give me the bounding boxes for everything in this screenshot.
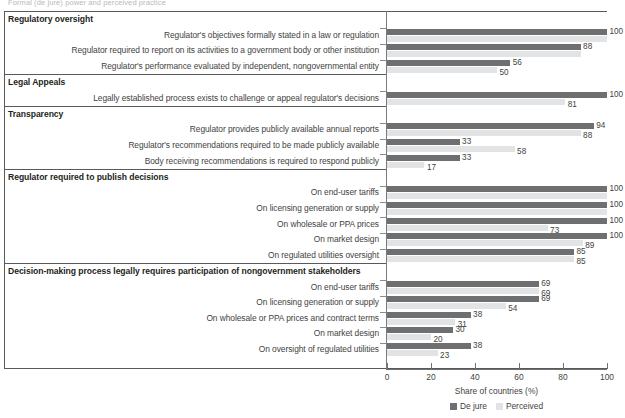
- x-axis-tick-label: 80: [558, 372, 567, 382]
- section-divider: [4, 263, 386, 264]
- bar-de-jure: [387, 202, 607, 208]
- category-tick: [380, 44, 386, 45]
- category-label: On market design: [314, 328, 379, 338]
- x-axis-tick: [387, 363, 388, 369]
- bar-de-jure: [387, 312, 471, 318]
- x-axis-tick: [475, 363, 476, 369]
- bar-perceived: [387, 334, 431, 340]
- bar-value-perceived: 50: [500, 68, 509, 77]
- x-axis-tick-label: 20: [426, 372, 435, 382]
- bar-value-de-jure: 100: [610, 216, 624, 225]
- bar-perceived: [387, 350, 438, 356]
- bar-de-jure: [387, 281, 539, 287]
- bar-value-de-jure: 100: [610, 200, 624, 209]
- bar-value-de-jure: 100: [610, 27, 624, 36]
- bar-value-de-jure: 100: [610, 90, 624, 99]
- category-label: On wholesale or PPA prices: [277, 219, 379, 229]
- legend-label-de-jure: De jure: [460, 401, 487, 411]
- bar-value-de-jure: 100: [610, 184, 624, 193]
- bar-de-jure: [387, 123, 594, 129]
- chart-legend: De jure Perceived: [386, 401, 607, 411]
- category-tick: [380, 312, 386, 313]
- category-label: On licensing generation or supply: [256, 203, 379, 213]
- bar-perceived: [387, 225, 548, 231]
- bar-perceived: [387, 193, 607, 199]
- bar-value-de-jure: 100: [610, 231, 624, 240]
- bar-value-de-jure: 94: [596, 121, 605, 130]
- bar-perceived: [387, 162, 424, 168]
- bar-perceived: [387, 130, 581, 136]
- category-label: Body receiving recommendations is requir…: [145, 156, 379, 166]
- category-tick: [380, 28, 386, 29]
- section-divider: [4, 74, 386, 75]
- legend-swatch-perceived: [496, 403, 503, 410]
- chart-canvas: Formal (de jure) power and perceived pra…: [0, 0, 625, 418]
- bar-perceived: [387, 240, 583, 246]
- x-axis-tick-label: 0: [385, 372, 390, 382]
- category-tick: [380, 233, 386, 234]
- bar-value-perceived: 81: [568, 100, 577, 109]
- bar-perceived: [387, 99, 565, 105]
- bar-value-de-jure: 30: [456, 325, 465, 334]
- x-axis-tick-label: 40: [470, 372, 479, 382]
- bar-perceived: [387, 303, 506, 309]
- chart-frame-left-border: [4, 11, 5, 369]
- category-label: On end-user tariffs: [311, 282, 379, 292]
- bar-value-de-jure: 69: [541, 279, 550, 288]
- bar-de-jure: [387, 44, 581, 50]
- bar-de-jure: [387, 343, 471, 349]
- category-tick: [380, 91, 386, 92]
- bar-de-jure: [387, 29, 607, 35]
- section-divider: [4, 106, 386, 107]
- x-axis-tick-label: 60: [514, 372, 523, 382]
- section-divider: [4, 169, 386, 170]
- section-heading: Regulatory oversight: [8, 14, 93, 24]
- bar-perceived: [387, 319, 455, 325]
- x-axis-tick-label: 100: [600, 372, 614, 382]
- bar-de-jure: [387, 186, 607, 192]
- section-heading: Transparency: [8, 109, 63, 119]
- category-tick: [380, 186, 386, 187]
- x-axis-tick: [607, 363, 608, 369]
- category-tick: [380, 343, 386, 344]
- bar-perceived: [387, 209, 607, 215]
- x-axis-line: [386, 369, 607, 370]
- bar-value-de-jure: 38: [473, 341, 482, 350]
- bar-value-de-jure: 85: [577, 247, 586, 256]
- category-tick: [380, 327, 386, 328]
- category-label: Regulator's objectives formally stated i…: [164, 30, 379, 40]
- bar-de-jure: [387, 296, 539, 302]
- category-label: On oversight of regulated utilities: [259, 344, 379, 354]
- bar-de-jure: [387, 233, 607, 239]
- category-tick: [380, 202, 386, 203]
- section-heading: Legal Appeals: [8, 77, 65, 87]
- category-label: Regulator provides publicly available an…: [190, 124, 379, 134]
- x-axis-tick: [563, 363, 564, 369]
- bar-perceived: [387, 288, 539, 294]
- category-label: On licensing generation or supply: [256, 297, 379, 307]
- category-label: Legally established process exists to ch…: [93, 93, 379, 103]
- category-tick: [380, 249, 386, 250]
- bar-value-perceived: 89: [585, 241, 594, 250]
- bar-de-jure: [387, 249, 574, 255]
- category-tick: [380, 217, 386, 218]
- legend-item-perceived: Perceived: [496, 401, 543, 411]
- bar-perceived: [387, 67, 497, 73]
- bar-de-jure: [387, 327, 453, 333]
- bar-value-perceived: 88: [583, 131, 592, 140]
- category-label: Regulator's recommendations required to …: [128, 140, 379, 150]
- bar-value-de-jure: 88: [583, 42, 592, 51]
- category-tick: [380, 139, 386, 140]
- section-heading: Decision-making process legally requires…: [8, 266, 361, 276]
- bar-de-jure: [387, 139, 460, 145]
- legend-item-de-jure: De jure: [450, 401, 487, 411]
- bar-de-jure: [387, 60, 510, 66]
- bar-value-de-jure: 56: [513, 58, 522, 67]
- category-label: On regulated utilities oversight: [268, 250, 379, 260]
- category-label: On market design: [314, 234, 379, 244]
- category-tick: [380, 123, 386, 124]
- x-axis-title: Share of countries (%): [386, 386, 607, 396]
- bar-value-de-jure: 33: [462, 153, 471, 162]
- bar-perceived: [387, 146, 515, 152]
- category-label: Regulator's performance evaluated by ind…: [101, 61, 379, 71]
